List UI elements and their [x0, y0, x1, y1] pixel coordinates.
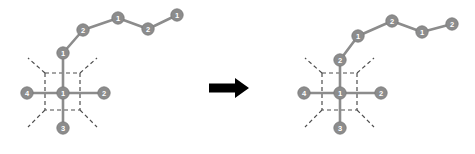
right-diagram-group: 142321212 — [298, 15, 458, 134]
diagonal-top-right — [80, 58, 97, 73]
graph-node[interactable]: 2 — [386, 15, 398, 27]
node-circle — [416, 26, 428, 38]
node-circle — [57, 47, 69, 59]
graph-node[interactable]: 2 — [142, 23, 154, 35]
graph-node[interactable]: 1 — [352, 30, 364, 42]
node-circle — [57, 87, 69, 99]
graph-node[interactable]: 2 — [77, 24, 89, 36]
diagonal-bottom-left — [28, 110, 45, 127]
transformation-arrow — [209, 78, 249, 98]
node-circle — [21, 87, 33, 99]
graph-node[interactable]: 3 — [334, 122, 346, 134]
node-circle — [171, 9, 183, 21]
node-circle — [334, 87, 346, 99]
graph-node[interactable]: 1 — [57, 47, 69, 59]
transformation-figure: 142312121 142321212 — [0, 0, 475, 154]
node-circle — [334, 54, 346, 66]
diagonal-bottom-right — [80, 110, 97, 127]
graph-node[interactable]: 1 — [416, 26, 428, 38]
graph-node[interactable]: 2 — [334, 54, 346, 66]
diagonal-top-right — [357, 58, 374, 73]
diagonal-bottom-right — [357, 110, 374, 127]
node-circle — [57, 122, 69, 134]
node-circle — [386, 15, 398, 27]
diagonal-bottom-left — [305, 110, 322, 127]
node-circle — [112, 12, 124, 24]
node-circle — [334, 122, 346, 134]
graph-node[interactable]: 4 — [298, 87, 310, 99]
left-diagram-group: 142312121 — [21, 9, 183, 134]
diagram-canvas: 142312121 142321212 — [0, 0, 475, 154]
node-circle — [375, 87, 387, 99]
node-circle — [77, 24, 89, 36]
diagonal-top-left — [305, 58, 322, 73]
graph-node[interactable]: 2 — [446, 18, 458, 30]
graph-node[interactable]: 1 — [57, 87, 69, 99]
node-circle — [142, 23, 154, 35]
node-circle — [352, 30, 364, 42]
node-circle — [446, 18, 458, 30]
graph-node[interactable]: 1 — [334, 87, 346, 99]
graph-node[interactable]: 2 — [375, 87, 387, 99]
graph-node[interactable]: 2 — [98, 87, 110, 99]
diagonal-top-left — [28, 58, 45, 73]
node-circle — [98, 87, 110, 99]
node-circle — [298, 87, 310, 99]
graph-node[interactable]: 4 — [21, 87, 33, 99]
arrow-group — [209, 78, 249, 98]
graph-node[interactable]: 1 — [112, 12, 124, 24]
graph-node[interactable]: 3 — [57, 122, 69, 134]
graph-node[interactable]: 1 — [171, 9, 183, 21]
